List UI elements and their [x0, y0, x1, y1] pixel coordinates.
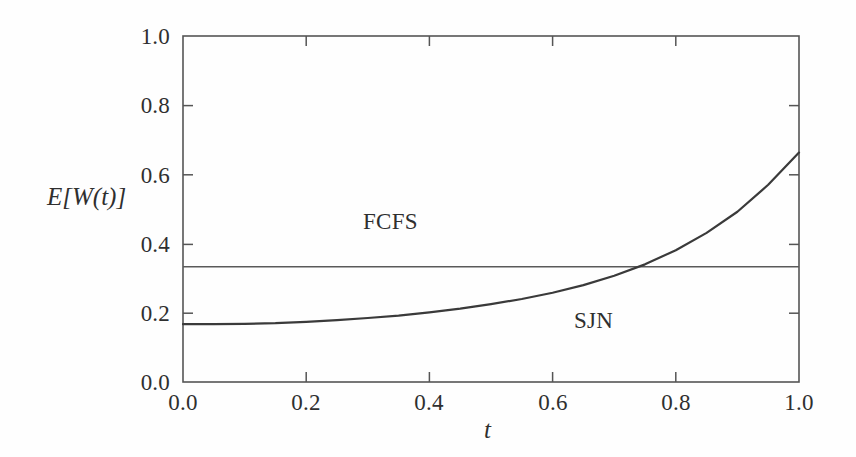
axes-frame — [183, 36, 799, 382]
series-line-sjn — [183, 153, 799, 325]
series-label-sjn: SJN — [574, 308, 613, 334]
xtick-label-0.6: 0.6 — [513, 390, 593, 416]
chart-figure: 1.0 0.8 0.6 0.4 0.2 0.0 0.0 0.2 0.4 0.6 … — [0, 0, 856, 457]
x-axis-title: t — [484, 416, 491, 444]
ytick-label-1.0: 1.0 — [104, 24, 170, 50]
y-axis-title: E[W(t)] — [47, 183, 126, 211]
xtick-label-0.8: 0.8 — [636, 390, 716, 416]
y-axis-ticks-left — [183, 106, 193, 314]
series-label-fcfs: FCFS — [363, 209, 418, 235]
xtick-label-0.4: 0.4 — [389, 390, 469, 416]
xtick-label-0.0: 0.0 — [143, 390, 223, 416]
ytick-label-0.4: 0.4 — [104, 232, 170, 258]
plot-frame — [183, 36, 799, 382]
ytick-label-0.8: 0.8 — [104, 93, 170, 119]
x-axis-ticks-top — [306, 36, 676, 46]
xtick-label-1.0: 1.0 — [759, 390, 839, 416]
y-axis-ticks-right — [789, 106, 799, 314]
ytick-label-0.2: 0.2 — [104, 301, 170, 327]
x-axis-ticks-bottom — [306, 372, 676, 382]
xtick-label-0.2: 0.2 — [266, 390, 346, 416]
